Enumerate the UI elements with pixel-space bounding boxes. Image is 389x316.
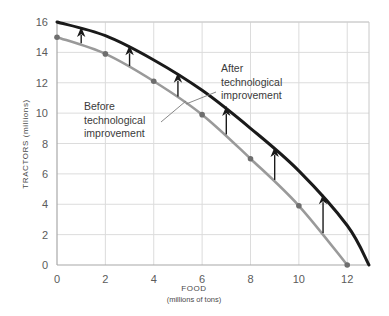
data-point-marker [296,203,302,209]
y-tick-label: 6 [42,168,48,180]
annotation-text-line: improvement [221,89,282,101]
annotation-text-line: technological [84,114,145,126]
data-point-marker [248,156,254,162]
data-point-marker [54,34,60,40]
x-axis-subtitle: (millions of tons) [167,295,222,304]
chart-container: 0246810121416 024681012 Beforetechnologi… [0,0,389,316]
x-axis-title: FOOD [181,284,207,293]
chart-background [0,0,389,316]
data-point-marker [199,112,205,118]
annotation-text-line: technological [221,76,282,88]
y-tick-label: 10 [36,107,48,119]
y-axis-title: TRACTORS (millions) [21,99,30,188]
y-tick-label: 14 [36,46,48,58]
x-tick-label: 8 [247,273,253,285]
y-tick-label: 16 [36,16,48,28]
y-tick-label: 2 [42,229,48,241]
x-tick-label: 10 [293,273,305,285]
y-tick-label: 12 [36,77,48,89]
data-point-marker [151,78,157,84]
y-tick-label: 8 [42,138,48,150]
x-tick-label: 12 [341,273,353,285]
x-tick-label: 4 [151,273,157,285]
y-tick-label: 4 [42,198,48,210]
data-point-marker [344,262,350,268]
annotation-text-line: improvement [84,127,145,139]
y-tick-label: 0 [42,259,48,271]
annotation-text-line: Before [84,100,115,112]
production-possibilities-chart: 0246810121416 024681012 Beforetechnologi… [0,0,389,316]
annotation-text-line: After [221,62,244,74]
x-tick-label: 2 [102,273,108,285]
data-point-marker [103,51,109,57]
x-tick-label: 0 [54,273,60,285]
